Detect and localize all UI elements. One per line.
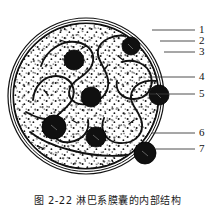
figure-caption: 图 2-22 淋巴系膜囊的内部结构 xyxy=(0,192,215,206)
label-number-4: 4 xyxy=(199,71,211,82)
label-number-3: 3 xyxy=(199,46,211,57)
label-number-6: 6 xyxy=(199,127,211,138)
label-number-5: 5 xyxy=(199,88,211,99)
label-number-7: 7 xyxy=(199,143,211,154)
figure-container: 1 2 3 4 5 6 7 图 2-22 淋巴系膜囊的内部结构 xyxy=(0,0,215,206)
histology-illustration xyxy=(0,0,215,206)
